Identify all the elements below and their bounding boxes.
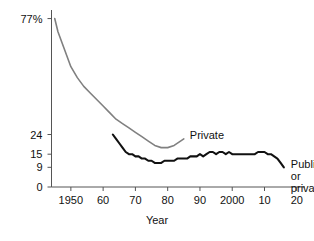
series-label-private: Private bbox=[190, 129, 224, 141]
y-axis-tick-label: 15 bbox=[0, 148, 43, 160]
y-axis-tick-label: 9 bbox=[0, 161, 43, 173]
x-axis-tick-label: 20 bbox=[272, 194, 314, 206]
y-axis-tick-label: 0 bbox=[0, 181, 43, 193]
series-label-line: Public or bbox=[291, 158, 314, 182]
series-label-line: Private bbox=[190, 129, 224, 141]
y-axis-tick-label: 24 bbox=[0, 129, 43, 141]
series-line-private bbox=[55, 19, 184, 148]
series-label-line: private bbox=[291, 182, 314, 194]
x-axis-title: Year bbox=[0, 214, 314, 226]
chart-container: 77%24159019506070809020001020PrivatePubl… bbox=[0, 0, 314, 241]
series-label-public-or-private: Public orprivate bbox=[291, 158, 314, 194]
y-axis-tick-label: 77% bbox=[0, 13, 43, 25]
axes-group bbox=[48, 10, 306, 191]
series-group bbox=[55, 19, 284, 168]
